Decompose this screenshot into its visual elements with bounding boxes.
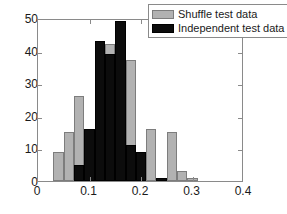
bars-layer <box>38 20 242 181</box>
chart-legend: Shuffle test data Independent test data <box>148 4 287 38</box>
legend-item-shuffle: Shuffle test data <box>152 7 284 21</box>
y-tick-mark-right-3 <box>238 85 242 86</box>
x-tick-mark-1 <box>90 177 91 181</box>
x-tick-label-0: 0 <box>17 185 57 197</box>
legend-item-independent: Independent test data <box>152 21 284 35</box>
bar-independent-3 <box>84 129 94 181</box>
bar-shuffle-0 <box>53 152 63 181</box>
x-tick-label-3: 0.3 <box>172 185 212 197</box>
y-tick-mark-right-1 <box>238 150 242 151</box>
x-tick-mark-top-2 <box>141 20 142 24</box>
plot-area <box>37 19 243 182</box>
y-tick-label-5: 50 <box>25 13 38 25</box>
y-tick-mark-right-2 <box>238 118 242 119</box>
bar-independent-7 <box>126 145 136 181</box>
x-tick-mark-3 <box>193 177 194 181</box>
bar-independent-2 <box>74 165 84 181</box>
bar-shuffle-9 <box>146 129 156 181</box>
bar-independent-5 <box>105 54 115 181</box>
bar-independent-6 <box>115 21 125 181</box>
y-tick-label-2: 20 <box>25 111 38 123</box>
bar-shuffle-12 <box>177 171 187 181</box>
y-tick-mark-3 <box>38 85 42 86</box>
bar-shuffle-1 <box>64 132 74 181</box>
y-tick-mark-4 <box>38 53 42 54</box>
y-tick-label-1: 10 <box>25 143 38 155</box>
y-tick-label-3: 30 <box>25 78 38 90</box>
x-tick-label-1: 0.1 <box>69 185 109 197</box>
y-tick-mark-right-4 <box>238 53 242 54</box>
x-tick-label-2: 0.2 <box>120 185 160 197</box>
x-tick-mark-top-1 <box>90 20 91 24</box>
bar-shuffle-11 <box>167 132 177 181</box>
x-tick-mark-2 <box>141 177 142 181</box>
legend-label-independent: Independent test data <box>178 23 284 34</box>
bar-independent-10 <box>156 178 166 181</box>
legend-swatch-shuffle-icon <box>152 10 174 19</box>
legend-label-shuffle: Shuffle test data <box>178 9 257 20</box>
bar-independent-4 <box>95 41 105 181</box>
legend-swatch-independent-icon <box>152 24 174 33</box>
y-tick-mark-1 <box>38 150 42 151</box>
x-tick-label-4: 0.4 <box>223 185 263 197</box>
histogram-figure: 01020304050 00.10.20.30.4 Shuffle test d… <box>0 0 287 214</box>
y-tick-label-4: 40 <box>25 46 38 58</box>
y-tick-mark-2 <box>38 118 42 119</box>
